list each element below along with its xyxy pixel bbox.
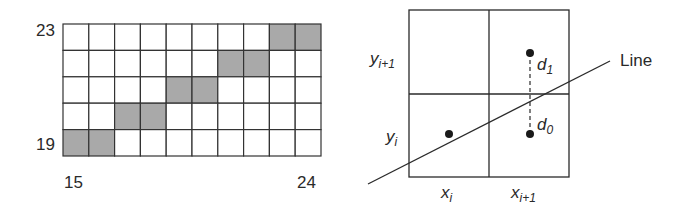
x-label-right: 24 <box>297 173 316 192</box>
pixel-cell <box>244 24 270 50</box>
x-i-plus-1-label: xi+1 <box>510 183 536 205</box>
x-i-label: xi <box>440 183 453 205</box>
pixel-cell <box>166 103 192 129</box>
y-label-bottom: 19 <box>36 135 55 154</box>
line-label: Line <box>620 51 652 70</box>
pixel-cell <box>244 103 270 129</box>
pixel-cell <box>89 24 115 50</box>
shaded-pixel-cell <box>166 77 192 103</box>
pixel-cell <box>63 50 89 76</box>
pixel-cell <box>295 50 321 76</box>
pixel-cell <box>218 24 244 50</box>
pixel-cell <box>269 77 295 103</box>
decision-diagram: yi+1 yi xi xi+1 d1 d0 Line <box>368 10 652 205</box>
pixel-cell <box>244 130 270 156</box>
pixel-cell <box>166 130 192 156</box>
pixel-cell <box>166 50 192 76</box>
pixel-cell <box>218 103 244 129</box>
pixel-cell <box>295 77 321 103</box>
shaded-pixel-cell <box>63 130 89 156</box>
shaded-pixel-cell <box>89 130 115 156</box>
shaded-pixel-cell <box>244 50 270 76</box>
y-i-plus-1-label: yi+1 <box>369 49 395 71</box>
pixel-cell <box>63 24 89 50</box>
pixel-cell <box>192 24 218 50</box>
pixel-cell <box>140 130 166 156</box>
pixel-cell <box>269 50 295 76</box>
pixel-cell <box>295 130 321 156</box>
lower-candidate-dot <box>526 130 534 138</box>
pixel-cell <box>115 24 141 50</box>
shaded-pixel-cell <box>192 77 218 103</box>
shaded-pixel-cell <box>218 50 244 76</box>
pixel-cell <box>140 77 166 103</box>
y-i-label: yi <box>385 127 398 149</box>
pixel-cell <box>115 50 141 76</box>
d1-label: d1 <box>537 55 553 77</box>
pixel-cell <box>269 130 295 156</box>
pixel-cell <box>244 77 270 103</box>
pixel-cell <box>192 50 218 76</box>
pixel-cell <box>115 77 141 103</box>
pixel-cell <box>140 24 166 50</box>
current-pixel-dot <box>445 130 453 138</box>
pixel-cell <box>115 130 141 156</box>
pixel-cell <box>218 77 244 103</box>
pixel-cell <box>218 130 244 156</box>
pixel-cell <box>63 77 89 103</box>
shaded-pixel-cell <box>269 24 295 50</box>
pixel-cell <box>192 103 218 129</box>
pixel-grid <box>63 24 321 156</box>
pixel-cell <box>295 103 321 129</box>
shaded-pixel-cell <box>140 103 166 129</box>
pixel-cell <box>269 103 295 129</box>
d0-label: d0 <box>537 115 553 137</box>
pixel-cell <box>192 130 218 156</box>
x-label-left: 15 <box>64 173 83 192</box>
diagram-canvas: 23 19 15 24 yi+1 yi xi xi+1 d1 d0 Line <box>0 0 688 211</box>
pixel-cell <box>89 77 115 103</box>
shaded-pixel-cell <box>295 24 321 50</box>
pixel-cell <box>166 24 192 50</box>
shaded-pixel-cell <box>115 103 141 129</box>
pixel-cell <box>63 103 89 129</box>
y-label-top: 23 <box>36 21 55 40</box>
pixel-cell <box>140 50 166 76</box>
pixel-cell <box>89 103 115 129</box>
pixel-cell <box>89 50 115 76</box>
upper-candidate-dot <box>526 49 534 57</box>
